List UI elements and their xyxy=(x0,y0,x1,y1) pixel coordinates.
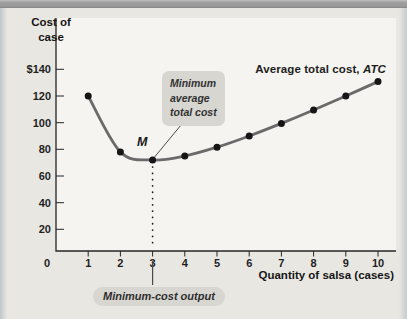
data-point xyxy=(310,107,317,114)
y-axis-title: Cost of case xyxy=(20,15,82,45)
curve-label-text: Average total cost, xyxy=(255,63,363,75)
x-tick-label: 4 xyxy=(182,257,189,269)
data-point xyxy=(214,144,221,151)
data-point xyxy=(117,149,124,156)
y-tick-label: $140 xyxy=(27,63,51,75)
minimum-cost-output-callout: Minimum-cost output xyxy=(93,287,225,306)
x-tick-label: 9 xyxy=(343,257,349,269)
minimum-point-label: M xyxy=(137,135,147,149)
x-tick-label: 1 xyxy=(85,257,91,269)
data-point xyxy=(278,120,285,127)
y-tick-label: 60 xyxy=(39,170,51,182)
curve-label-symbol: ATC xyxy=(363,63,386,75)
x-tick-label: 7 xyxy=(278,257,284,269)
y-tick-label: 40 xyxy=(39,197,51,209)
y-tick-label: 80 xyxy=(39,143,51,155)
x-tick-label: 6 xyxy=(246,257,252,269)
data-point xyxy=(149,157,156,164)
origin-label: 0 xyxy=(44,257,50,269)
data-point xyxy=(85,93,92,100)
y-tick-label: 100 xyxy=(33,117,51,129)
data-point xyxy=(246,133,253,140)
data-point xyxy=(375,78,382,85)
x-tick-label: 8 xyxy=(311,257,317,269)
x-tick-label: 2 xyxy=(117,257,123,269)
curve-label: Average total cost, ATC xyxy=(255,63,386,75)
data-point xyxy=(342,93,349,100)
data-point xyxy=(181,153,188,160)
x-axis-title: Quantity of salsa (cases) xyxy=(259,269,395,281)
y-tick-label: 20 xyxy=(39,223,51,235)
x-tick-label: 5 xyxy=(214,257,220,269)
y-tick-label: 120 xyxy=(33,90,51,102)
x-tick-label: 10 xyxy=(372,257,384,269)
minimum-average-total-cost-callout: Minimum average total cost xyxy=(162,71,225,126)
